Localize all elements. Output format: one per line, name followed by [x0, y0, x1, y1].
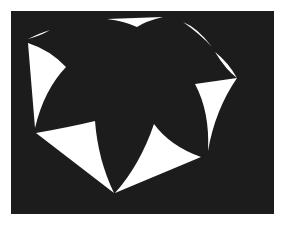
figure-canvas	[0, 0, 287, 227]
star-heptagon-figure	[0, 0, 287, 227]
dark-panel	[11, 11, 274, 214]
